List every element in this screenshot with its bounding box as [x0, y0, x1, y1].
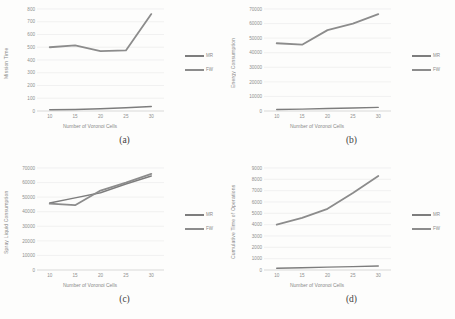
- svg-text:200: 200: [27, 83, 35, 88]
- svg-text:20: 20: [98, 273, 104, 278]
- legend-line-mr: [185, 214, 204, 216]
- legend-d: MRFW: [396, 163, 440, 281]
- legend-line-mr: [185, 55, 204, 57]
- legend-label-fw: FW: [433, 227, 440, 232]
- svg-text:20: 20: [325, 114, 331, 119]
- y-axis-label-a: Mission Time: [0, 4, 11, 122]
- chart-area-b: Energy Consumption 010000200003000040000…: [227, 4, 455, 129]
- panel-b: Energy Consumption 010000200003000040000…: [227, 0, 455, 159]
- caption-a: (a): [40, 135, 209, 145]
- chart-area-d: Cumulative Time of Operations 0100020003…: [227, 163, 455, 288]
- legend-item-fw: FW: [185, 68, 213, 73]
- legend-item-fw: FW: [185, 227, 213, 232]
- legend-item-mr: MR: [185, 213, 213, 218]
- line-chart-a: 01002003004005006007008001015202530: [11, 4, 169, 122]
- svg-text:60000: 60000: [249, 21, 262, 26]
- legend-label-mr: MR: [206, 213, 213, 218]
- legend-item-mr: MR: [185, 54, 213, 59]
- legend-label-fw: FW: [433, 68, 440, 73]
- svg-text:70000: 70000: [249, 7, 262, 12]
- svg-text:15: 15: [73, 273, 79, 278]
- svg-text:10000: 10000: [22, 253, 35, 258]
- svg-text:600: 600: [27, 32, 35, 37]
- legend-c: MRFW: [169, 163, 213, 281]
- chart-area-a: Mission Time 010020030040050060070080010…: [0, 4, 227, 129]
- legend-line-fw: [185, 69, 204, 71]
- svg-text:25: 25: [350, 114, 356, 119]
- svg-text:0: 0: [32, 109, 35, 114]
- caption-d: (d): [267, 294, 436, 304]
- svg-text:0: 0: [259, 268, 262, 273]
- svg-text:10: 10: [274, 114, 280, 119]
- svg-text:30000: 30000: [22, 224, 35, 229]
- x-axis-label-a: Number of Voronoi Cells: [63, 123, 117, 129]
- svg-text:3000: 3000: [252, 234, 263, 239]
- svg-text:30: 30: [376, 273, 382, 278]
- legend-line-fw: [412, 228, 431, 230]
- svg-text:500: 500: [27, 45, 35, 50]
- svg-text:6000: 6000: [252, 200, 263, 205]
- svg-text:700: 700: [27, 19, 35, 24]
- plot-wrap-b: 0100002000030000400005000060000700001015…: [238, 4, 396, 129]
- legend-item-fw: FW: [412, 68, 440, 73]
- svg-text:50000: 50000: [22, 195, 35, 200]
- svg-text:20000: 20000: [22, 239, 35, 244]
- svg-text:20000: 20000: [249, 80, 262, 85]
- svg-text:25: 25: [123, 273, 129, 278]
- svg-text:30: 30: [149, 273, 155, 278]
- svg-text:15: 15: [73, 114, 79, 119]
- svg-text:800: 800: [27, 7, 35, 12]
- legend-line-fw: [185, 228, 204, 230]
- svg-text:15: 15: [300, 273, 306, 278]
- plot-wrap-a: 01002003004005006007008001015202530 Numb…: [11, 4, 169, 129]
- svg-text:5000: 5000: [252, 211, 263, 216]
- svg-text:30: 30: [149, 114, 155, 119]
- y-axis-label-b: Energy Consumption: [227, 4, 238, 122]
- legend-label-mr: MR: [433, 54, 440, 59]
- svg-text:2000: 2000: [252, 245, 263, 250]
- legend-label-mr: MR: [206, 54, 213, 59]
- svg-text:0: 0: [259, 109, 262, 114]
- svg-text:30: 30: [376, 114, 382, 119]
- plot-wrap-c: 0100002000030000400005000060000700001015…: [11, 163, 169, 288]
- svg-text:8000: 8000: [252, 177, 263, 182]
- svg-text:30000: 30000: [249, 65, 262, 70]
- panel-d: Cumulative Time of Operations 0100020003…: [227, 159, 455, 319]
- svg-text:10: 10: [47, 114, 53, 119]
- svg-text:15: 15: [300, 114, 306, 119]
- plot-wrap-d: 0100020003000400050006000700080009000101…: [238, 163, 396, 288]
- svg-text:40000: 40000: [22, 209, 35, 214]
- svg-text:10000: 10000: [249, 94, 262, 99]
- svg-text:50000: 50000: [249, 36, 262, 41]
- svg-text:1000: 1000: [252, 256, 263, 261]
- chart-area-c: Spray Liquid Consumption 010000200003000…: [0, 163, 227, 288]
- legend-item-fw: FW: [412, 227, 440, 232]
- svg-text:20: 20: [325, 273, 331, 278]
- legend-line-fw: [412, 69, 431, 71]
- caption-b: (b): [267, 135, 436, 145]
- legend-label-fw: FW: [206, 227, 213, 232]
- svg-text:10: 10: [274, 273, 280, 278]
- svg-text:25: 25: [123, 114, 129, 119]
- svg-text:10: 10: [47, 273, 53, 278]
- line-chart-c: 0100002000030000400005000060000700001015…: [11, 163, 169, 281]
- x-axis-label-c: Number of Voronoi Cells: [63, 282, 117, 288]
- svg-text:300: 300: [27, 70, 35, 75]
- legend-label-fw: FW: [206, 68, 213, 73]
- svg-text:20: 20: [98, 114, 104, 119]
- x-axis-label-d: Number of Voronoi Cells: [290, 282, 344, 288]
- svg-text:400: 400: [27, 58, 35, 63]
- svg-text:70000: 70000: [22, 166, 35, 171]
- svg-text:4000: 4000: [252, 222, 263, 227]
- svg-text:60000: 60000: [22, 180, 35, 185]
- legend-item-mr: MR: [412, 213, 440, 218]
- caption-c: (c): [40, 294, 209, 304]
- y-axis-label-d: Cumulative Time of Operations: [227, 163, 238, 281]
- svg-text:25: 25: [350, 273, 356, 278]
- svg-text:9000: 9000: [252, 166, 263, 171]
- y-axis-label-c: Spray Liquid Consumption: [0, 163, 11, 281]
- legend-item-mr: MR: [412, 54, 440, 59]
- svg-text:0: 0: [32, 268, 35, 273]
- legend-line-mr: [412, 214, 431, 216]
- svg-text:40000: 40000: [249, 50, 262, 55]
